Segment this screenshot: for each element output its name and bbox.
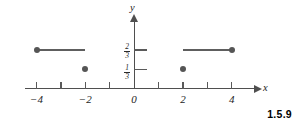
x-tick (60, 82, 61, 89)
x-tick-label: 2 (170, 93, 196, 105)
x-tick (158, 82, 159, 89)
y-tick-label-two-thirds: 2 3 (104, 43, 130, 59)
x-tick (207, 82, 208, 89)
x-axis-arrow-icon (254, 85, 262, 93)
x-tick-label: 4 (219, 93, 245, 105)
x-tick (85, 82, 86, 89)
right-segment (183, 49, 232, 51)
x-tick (36, 82, 37, 89)
y-axis-arrow-icon (130, 14, 138, 22)
x-tick (231, 82, 232, 89)
y-tick (134, 49, 147, 50)
point-pos4 (229, 47, 235, 53)
x-tick (182, 82, 183, 89)
y-axis-label: y (130, 2, 135, 13)
point-pos2-low (180, 66, 186, 72)
fraction-numerator: 2 (124, 43, 130, 51)
point-neg4 (34, 47, 40, 53)
y-axis-line (134, 21, 135, 89)
x-tick-label: −2 (72, 93, 98, 105)
point-neg2-low (82, 66, 88, 72)
x-axis-label: x (263, 82, 268, 93)
graph-figure: x y −4−2024 2 3 1 3 1.5.9 (0, 0, 298, 123)
left-segment (37, 49, 86, 51)
x-tick-label: 0 (121, 93, 147, 105)
y-tick-label-one-third: 1 3 (104, 64, 130, 80)
x-tick-label: −4 (24, 93, 50, 105)
fraction-denominator: 3 (124, 51, 130, 60)
fraction-denominator: 3 (124, 72, 130, 81)
x-tick (109, 82, 110, 89)
fraction-numerator: 1 (124, 64, 130, 72)
y-tick (134, 69, 147, 70)
figure-caption: 1.5.9 (267, 108, 292, 120)
